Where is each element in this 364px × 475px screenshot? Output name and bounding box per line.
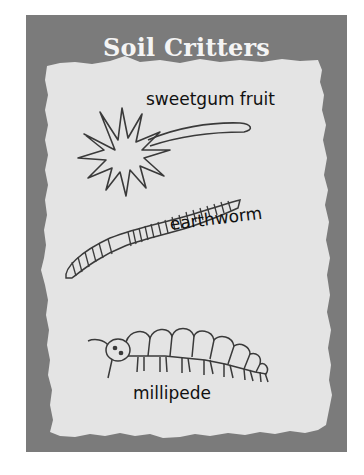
label-millipede: millipede: [133, 383, 211, 403]
label-sweetgum-fruit: sweetgum fruit: [146, 89, 275, 109]
torn-paper: [0, 0, 364, 475]
